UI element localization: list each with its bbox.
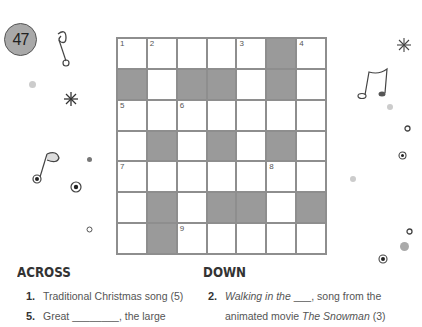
grid-cell[interactable] bbox=[178, 39, 206, 68]
black-cell bbox=[208, 193, 236, 222]
grid-cell[interactable] bbox=[297, 224, 325, 253]
down-heading: DOWN bbox=[203, 264, 246, 280]
ring-dot-icon bbox=[378, 254, 388, 264]
dot-decoration bbox=[87, 157, 92, 162]
ring-dot-icon bbox=[70, 181, 82, 193]
black-cell bbox=[297, 193, 325, 222]
ring-icon bbox=[404, 125, 411, 132]
grid-cell[interactable] bbox=[237, 70, 265, 99]
black-cell bbox=[267, 70, 295, 99]
grid-cell[interactable] bbox=[297, 132, 325, 161]
grid-cell[interactable] bbox=[178, 193, 206, 222]
clue-number: 3 bbox=[239, 40, 243, 48]
snowflake-icon bbox=[396, 37, 412, 53]
black-cell bbox=[148, 193, 176, 222]
dot-decoration bbox=[400, 242, 409, 251]
ring-dot-icon bbox=[398, 151, 407, 160]
crossword-grid: 123456789 bbox=[116, 37, 327, 255]
ring-icon bbox=[86, 226, 93, 233]
grid-cell[interactable] bbox=[208, 162, 236, 191]
black-cell bbox=[118, 70, 146, 99]
grid-cell[interactable] bbox=[118, 193, 146, 222]
clue-number: 1 bbox=[120, 40, 124, 48]
black-cell bbox=[267, 132, 295, 161]
clue-number: 8 bbox=[269, 163, 273, 171]
grid-cell[interactable] bbox=[297, 162, 325, 191]
grid-cell[interactable] bbox=[297, 101, 325, 130]
down-clue-2[interactable]: 2.Walking in the ___, song from the bbox=[208, 290, 381, 302]
grid-cell[interactable] bbox=[297, 70, 325, 99]
grid-cell[interactable] bbox=[178, 132, 206, 161]
black-cell bbox=[237, 193, 265, 222]
grid-cell[interactable] bbox=[118, 224, 146, 253]
grid-cell[interactable]: 6 bbox=[178, 101, 206, 130]
black-cell bbox=[148, 224, 176, 253]
dot-decoration bbox=[350, 176, 356, 182]
grid-cell[interactable]: 2 bbox=[148, 39, 176, 68]
grid-cell[interactable]: 4 bbox=[297, 39, 325, 68]
grid-cell[interactable] bbox=[237, 132, 265, 161]
grid-cell[interactable] bbox=[178, 162, 206, 191]
black-cell bbox=[208, 132, 236, 161]
music-note-icon bbox=[52, 28, 74, 70]
black-cell bbox=[148, 132, 176, 161]
clue-number: 4 bbox=[299, 40, 303, 48]
clue-number: 2 bbox=[150, 40, 154, 48]
grid-cell[interactable] bbox=[118, 132, 146, 161]
puzzle-number-badge: 47 bbox=[4, 23, 37, 56]
grid-cell[interactable]: 7 bbox=[118, 162, 146, 191]
grid-cell[interactable]: 3 bbox=[237, 39, 265, 68]
double-note-icon bbox=[357, 65, 391, 101]
clue-number: 6 bbox=[180, 102, 184, 110]
grid-cell[interactable] bbox=[148, 162, 176, 191]
grid-cell[interactable] bbox=[208, 39, 236, 68]
across-clue-5[interactable]: 5.Great ________, the large bbox=[26, 310, 166, 322]
clue-number: 9 bbox=[180, 225, 184, 233]
grid-cell[interactable]: 9 bbox=[178, 224, 206, 253]
ring-icon bbox=[406, 228, 413, 235]
grid-cell[interactable] bbox=[208, 224, 236, 253]
grid-cell[interactable] bbox=[237, 101, 265, 130]
down-clue-2-continued: animated movie The Snowman (3) bbox=[225, 310, 386, 322]
snowflake-icon bbox=[63, 91, 79, 107]
grid-cell[interactable] bbox=[267, 193, 295, 222]
dot-decoration bbox=[29, 81, 36, 88]
grid-cell[interactable]: 5 bbox=[118, 101, 146, 130]
across-heading: ACROSS bbox=[17, 264, 71, 280]
music-note-icon bbox=[32, 150, 62, 186]
grid-cell[interactable]: 8 bbox=[267, 162, 295, 191]
dot-decoration bbox=[387, 104, 393, 110]
grid-cell[interactable] bbox=[267, 224, 295, 253]
black-cell bbox=[267, 39, 295, 68]
grid-cell[interactable] bbox=[237, 162, 265, 191]
black-cell bbox=[208, 70, 236, 99]
grid-cell[interactable] bbox=[208, 101, 236, 130]
across-clue-1[interactable]: 1.Traditional Christmas song (5) bbox=[26, 290, 183, 302]
clue-number: 7 bbox=[120, 163, 124, 171]
grid-cell[interactable] bbox=[267, 101, 295, 130]
grid-cell[interactable] bbox=[237, 224, 265, 253]
black-cell bbox=[178, 70, 206, 99]
grid-cell[interactable]: 1 bbox=[118, 39, 146, 68]
clue-number: 5 bbox=[120, 102, 124, 110]
grid-cell[interactable] bbox=[148, 70, 176, 99]
grid-cell[interactable] bbox=[148, 101, 176, 130]
